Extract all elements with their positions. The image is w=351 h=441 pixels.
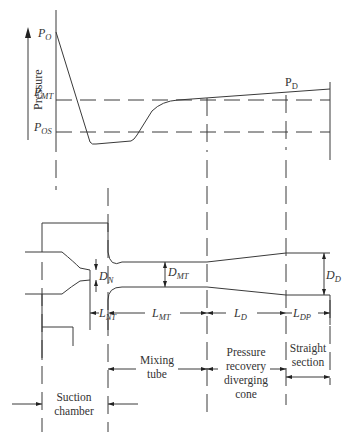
caption-diverging-cone-line3: diverging — [224, 374, 268, 387]
l-nt-arrowhead-left-icon — [90, 311, 96, 315]
d-d-arrowhead-bottom-icon — [322, 289, 326, 295]
suction-chamber-bottom — [42, 294, 73, 346]
label-d-n: DN — [98, 269, 115, 285]
nozzle-upper-wall — [25, 252, 90, 270]
throat-upper-wall — [122, 253, 330, 262]
diverging-cone-arrowhead-left-icon — [207, 367, 213, 371]
label-l-mt: LMT — [151, 306, 172, 322]
suction-chamber-arrowhead-right-icon — [108, 402, 114, 406]
caption-suction-chamber-line2: chamber — [54, 405, 94, 417]
l-d-arrowhead-left-icon — [207, 311, 213, 315]
mixing-tube-arrowhead-left-icon — [108, 367, 114, 371]
d-n-arrowhead-bottom-icon — [94, 280, 98, 286]
caption-suction-chamber-line1: Suction — [56, 391, 91, 403]
caption-straight-section-line1: Straight — [290, 342, 327, 355]
pressure-axis-arrowhead-icon — [25, 27, 31, 38]
diverging-cone-arrowhead-right-icon — [280, 367, 286, 371]
label-p-os: POS — [33, 120, 52, 136]
suction-chamber-arrowhead-left-icon — [36, 402, 42, 406]
label-p-o: PO — [37, 26, 51, 42]
d-d-arrowhead-top-icon — [322, 253, 326, 259]
d-mt-arrowhead-top-icon — [163, 262, 167, 268]
caption-mixing-tube-line1: Mixing — [140, 354, 174, 367]
caption-diverging-cone-line2: recovery — [226, 360, 266, 373]
caption-diverging-cone-line1: Pressure — [227, 346, 266, 358]
label-p-d: PD — [285, 75, 298, 91]
d-mt-arrowhead-bottom-icon — [163, 281, 167, 287]
label-d-mt: DMT — [167, 265, 190, 281]
label-d-d: DD — [325, 268, 342, 284]
d-n-arrowhead-top-icon — [94, 264, 98, 270]
straight-section-arrowhead-left-icon — [286, 375, 292, 379]
caption-mixing-tube-line2: tube — [147, 368, 167, 380]
l-d-arrowhead-right-icon — [280, 311, 286, 315]
suction-chamber-top — [42, 223, 122, 264]
l-mt-arrowhead-right-icon — [201, 311, 207, 315]
jet-pump-diagram: Pressure PO PMT POS PD DN DMT — [0, 0, 351, 441]
l-dp-arrowhead-right-icon — [324, 311, 330, 315]
mixing-tube-arrowhead-right-icon — [201, 367, 207, 371]
caption-diverging-cone-line4: cone — [235, 388, 257, 400]
label-l-dp: LDP — [292, 306, 311, 322]
nozzle-lower-wall — [25, 280, 90, 294]
caption-straight-section-line2: section — [292, 356, 325, 368]
straight-section-arrowhead-right-icon — [324, 375, 330, 379]
label-l-d: LD — [233, 306, 248, 322]
